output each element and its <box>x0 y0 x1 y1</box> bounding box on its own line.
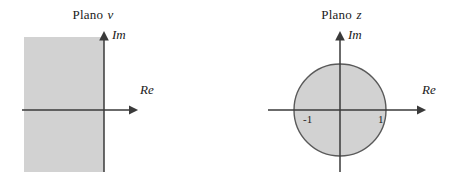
real-axis-label-z: Re <box>422 82 436 98</box>
imaginary-axis-label-z: Im <box>348 27 362 43</box>
tick-label-positive-one: 1 <box>378 113 384 125</box>
imaginary-axis-label-v: Im <box>112 27 126 43</box>
tick-label-negative-one: -1 <box>303 113 312 125</box>
real-axis-label-v: Re <box>140 82 154 98</box>
complex-plane-mapping-figure: Plano v Im Re Plano z <box>0 0 459 183</box>
panel-plano-v: Plano v Im Re <box>0 0 230 183</box>
panel-plano-z: Plano z Im Re -1 1 <box>230 0 459 183</box>
shaded-half-plane-region <box>24 37 104 172</box>
